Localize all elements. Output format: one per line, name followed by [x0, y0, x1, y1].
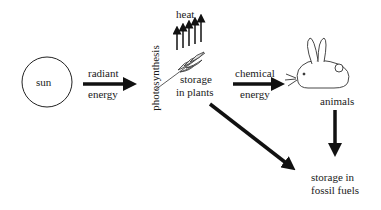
heat-arrows: [177, 18, 201, 50]
radiant-energy-label-2: energy: [88, 88, 118, 100]
rabbit-icon: [285, 38, 349, 88]
storage-plants-label-2: in plants: [176, 86, 214, 98]
chemical-energy-label-2: energy: [240, 88, 270, 100]
plants-to-fossil-arrow: [210, 104, 290, 166]
radiant-energy-label-1: radiant: [88, 67, 119, 79]
photosynthesis-label: photosynthesis: [149, 33, 161, 123]
storage-plants-label-1: storage: [180, 73, 212, 85]
heat-label: heat: [176, 8, 194, 20]
storage-fossil-label-2: fossil fuels: [311, 184, 359, 196]
chemical-energy-label-1: chemical: [235, 67, 275, 79]
animals-label: animals: [320, 95, 354, 107]
storage-fossil-label-1: storage in: [311, 171, 354, 183]
sun-label: sun: [36, 76, 51, 88]
